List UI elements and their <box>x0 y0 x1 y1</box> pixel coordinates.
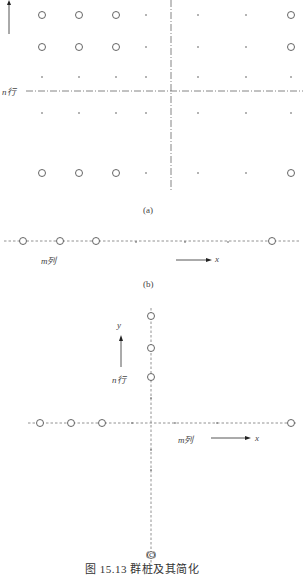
x-arrow-head <box>206 258 212 262</box>
panel-c-label: (c) <box>146 549 156 559</box>
row-label-text: n行 <box>2 87 16 97</box>
pile-circle <box>20 238 27 245</box>
pile-circle <box>39 12 46 19</box>
pile-circle <box>57 238 64 245</box>
pile-circle <box>68 420 75 427</box>
pile-dot <box>145 14 147 16</box>
pile-dot <box>41 76 43 78</box>
pile-circle <box>148 345 155 352</box>
pile-dot <box>197 172 199 174</box>
pile-dot <box>245 14 247 16</box>
panel-a <box>7 0 303 190</box>
pile-dot <box>227 241 229 243</box>
pile-dot <box>245 76 247 78</box>
pile-dot <box>115 112 117 114</box>
pile-dot <box>174 422 176 424</box>
pile-circle <box>76 170 83 177</box>
pile-circle <box>288 170 295 177</box>
pile-circle <box>148 313 155 320</box>
pile-dot <box>197 46 199 48</box>
pile-circle <box>37 420 44 427</box>
pile-dot <box>131 422 133 424</box>
pile-circle <box>288 12 295 19</box>
column-label-m: m列 <box>41 254 57 267</box>
pile-circle <box>93 238 100 245</box>
figure-caption: 图 15.13 群桩及其简化 <box>85 560 199 575</box>
pile-circle <box>113 170 120 177</box>
pile-dot <box>245 112 247 114</box>
pile-dot <box>78 76 80 78</box>
pile-circle <box>288 44 295 51</box>
pile-dot <box>145 112 147 114</box>
pile-dot <box>245 46 247 48</box>
column-label-m-c: m列 <box>178 433 194 446</box>
pile-circle <box>288 420 295 427</box>
x-axis-label: x <box>215 254 219 264</box>
pile-dot <box>150 397 152 399</box>
pile-dot <box>245 172 247 174</box>
y-axis-label: y <box>117 320 121 330</box>
pile-dot <box>145 46 147 48</box>
pile-dot <box>197 112 199 114</box>
pile-circle <box>76 44 83 51</box>
pile-circle <box>113 44 120 51</box>
panel-b-label: (b) <box>143 279 154 289</box>
pile-dot <box>197 14 199 16</box>
pile-circle <box>269 238 276 245</box>
row-label-n: n行 <box>2 85 16 98</box>
pile-dot <box>115 76 117 78</box>
pile-dot <box>135 241 137 243</box>
x-axis-label-c: x <box>255 433 259 443</box>
pile-dot <box>290 112 292 114</box>
pile-dot <box>290 76 292 78</box>
up-arrow-head <box>7 0 11 5</box>
y-arrow-head <box>119 335 123 341</box>
pile-dot <box>41 112 43 114</box>
pile-circle <box>39 170 46 177</box>
pile-circle <box>113 12 120 19</box>
pile-circle <box>39 44 46 51</box>
panel-a-label: (a) <box>143 205 153 215</box>
pile-dot <box>145 76 147 78</box>
pile-dot <box>145 172 147 174</box>
pile-dot <box>197 76 199 78</box>
pile-dot <box>150 469 152 471</box>
pile-circle <box>99 420 106 427</box>
row-label-n-c: n行 <box>112 373 126 386</box>
pile-dot <box>78 112 80 114</box>
pile-dot <box>216 422 218 424</box>
pile-dot <box>184 241 186 243</box>
pile-circle <box>148 374 155 381</box>
x-arrow-head <box>245 436 251 440</box>
pile-dot <box>150 449 152 451</box>
pile-circle <box>76 12 83 19</box>
